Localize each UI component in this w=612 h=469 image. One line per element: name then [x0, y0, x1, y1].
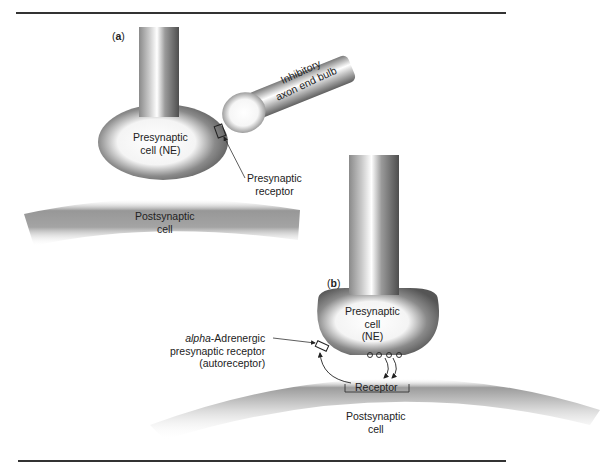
autoreceptor-box: [315, 341, 328, 352]
release-arrow-1: [384, 358, 388, 378]
release-arrow-2: [392, 358, 396, 378]
presynaptic-stem-b: [349, 155, 399, 295]
autoreceptor-feedback-arrow: [320, 353, 351, 383]
receptor-pointer-a: [224, 137, 245, 178]
receptor-label-b: Receptor: [355, 381, 398, 394]
postsynaptic-cell-label-a: Postsynaptic cell: [135, 210, 195, 235]
presynaptic-receptor-label-a: Presynaptic receptor: [247, 172, 302, 197]
presynaptic-cell-label-a: Presynaptic cell (NE): [133, 131, 188, 156]
autoreceptor-label: alpha-Adrenergic presynaptic receptor (a…: [170, 332, 265, 370]
panel-b: [150, 155, 600, 440]
postsynaptic-cell-label-b: Postsynaptic cell: [346, 410, 406, 435]
presynaptic-cell-label-b: Presynaptic cell (NE): [345, 305, 400, 343]
presynaptic-stem-a: [139, 27, 179, 117]
autoreceptor-pointer: [273, 338, 315, 343]
panel-label-b: (b): [327, 277, 340, 289]
panel-label-a: (a): [112, 30, 125, 42]
